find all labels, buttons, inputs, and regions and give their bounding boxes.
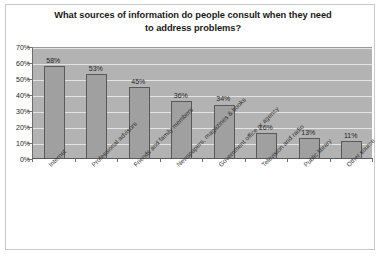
y-axis-tick-label: 30% (4, 108, 30, 115)
bar-value-label: 45% (131, 78, 145, 85)
bar-value-label: 16% (259, 124, 273, 131)
x-axis-tick-mark (75, 159, 76, 162)
x-axis-tick-mark (245, 159, 246, 162)
gridline (33, 128, 372, 129)
bar-value-label: 36% (174, 92, 188, 99)
bar (44, 66, 65, 159)
bar-value-label: 34% (216, 95, 230, 102)
x-axis-tick-mark (202, 159, 203, 162)
gridline (33, 64, 372, 65)
chart-title: What sources of information do people co… (28, 9, 358, 34)
y-axis-tick-label: 40% (4, 92, 30, 99)
y-axis-tick-label: 10% (4, 140, 30, 147)
bar (86, 74, 107, 159)
bar-value-label: 53% (89, 65, 103, 72)
y-axis-tick-label: 0% (4, 156, 30, 163)
gridline (33, 112, 372, 113)
y-axis: 0%10%20%30%40%50%60%70% (0, 47, 30, 159)
y-axis-tick-label: 70% (4, 44, 30, 51)
bar-value-label: 11% (344, 132, 358, 139)
y-axis-tick-label: 50% (4, 76, 30, 83)
chart-title-line-2: to address problems? (28, 22, 358, 35)
y-axis-tick-label: 60% (4, 60, 30, 67)
bar-value-label: 58% (46, 57, 60, 64)
chart-title-line-1: What sources of information do people co… (28, 9, 358, 22)
x-axis-tick-mark (117, 159, 118, 162)
x-axis-tick-mark (160, 159, 161, 162)
gridline (33, 80, 372, 81)
x-axis-tick-mark (32, 159, 33, 162)
x-axis-tick-mark (330, 159, 331, 162)
x-axis-tick-mark (287, 159, 288, 162)
y-axis-tick-label: 20% (4, 124, 30, 131)
gridline (33, 96, 372, 97)
x-axis-tick-mark (372, 159, 373, 162)
bar-value-label: 13% (301, 129, 315, 136)
gridline (33, 48, 372, 49)
chart-container: What sources of information do people co… (0, 0, 381, 257)
